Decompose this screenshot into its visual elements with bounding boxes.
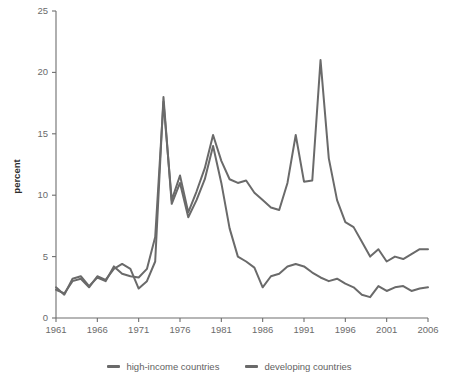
series-line-high-income — [56, 97, 428, 297]
x-tick-label: 1996 — [335, 324, 356, 335]
line-chart-plot: 0510152025 19611966197119761981198619911… — [0, 0, 459, 380]
x-tick-label: 1986 — [252, 324, 273, 335]
y-axis-ticks: 0510152025 — [37, 5, 56, 323]
legend-item-developing[interactable]: developing countries — [245, 361, 351, 372]
y-axis-title: percent — [11, 159, 22, 194]
x-tick-label: 1966 — [87, 324, 108, 335]
y-tick-label: 5 — [43, 251, 48, 262]
y-tick-label: 25 — [37, 5, 48, 16]
x-tick-label: 2006 — [417, 324, 438, 335]
legend-swatch-developing — [245, 365, 258, 368]
x-tick-label: 1991 — [293, 324, 314, 335]
y-tick-label: 15 — [37, 128, 48, 139]
x-tick-label: 1961 — [45, 324, 66, 335]
y-tick-label: 0 — [43, 312, 48, 323]
chart-container: 0510152025 19611966197119761981198619911… — [0, 0, 459, 380]
chart-legend: high-income countries developing countri… — [0, 361, 459, 372]
y-tick-label: 20 — [37, 66, 48, 77]
x-tick-label: 2001 — [376, 324, 397, 335]
legend-label-high-income: high-income countries — [126, 361, 219, 372]
y-tick-label: 10 — [37, 189, 48, 200]
x-tick-label: 1971 — [128, 324, 149, 335]
legend-label-developing: developing countries — [264, 361, 351, 372]
legend-swatch-high-income — [107, 365, 120, 368]
x-tick-label: 1981 — [211, 324, 232, 335]
x-axis-ticks: 1961196619711976198119861991199620012006 — [45, 318, 438, 335]
legend-item-high-income[interactable]: high-income countries — [107, 361, 219, 372]
data-series-group — [56, 60, 428, 297]
x-tick-label: 1976 — [169, 324, 190, 335]
